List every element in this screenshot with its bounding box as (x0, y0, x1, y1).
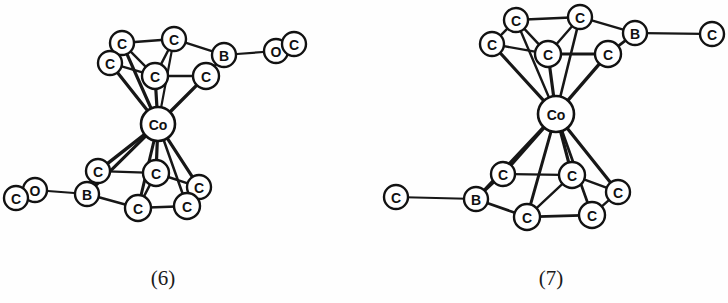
atom-circle-l_c_botright (174, 193, 200, 219)
atom-circle-u_b (212, 43, 236, 67)
atom-carbon-l_c_botright[interactable]: C (174, 193, 200, 219)
atom-circle-co (141, 107, 175, 141)
atom-carbon-u_c_term[interactable]: C (282, 32, 306, 56)
atom-circle-u_c_term (700, 22, 724, 46)
atom-carbon-l_c_term[interactable]: C (4, 186, 28, 210)
atom-boron-l_b[interactable]: B (75, 182, 99, 206)
atom-boron-l_b[interactable]: B (464, 187, 488, 211)
atom-cobalt-co[interactable]: Co (141, 107, 175, 141)
bond-l_c_bot-l_c_botright (538, 215, 582, 216)
bond-l_c_center-l_c_bot (535, 182, 565, 210)
atom-circle-u_c_left (98, 51, 122, 75)
atom-carbon-l_c_bot[interactable]: C (514, 204, 540, 230)
atom-cobalt-co[interactable]: Co (538, 96, 574, 132)
structure-7: CCCCCBCCoCCCBCCC(7) (384, 5, 724, 290)
atom-circle-u_c_center (535, 41, 561, 67)
atom-circle-u_c_term (282, 32, 306, 56)
atom-carbon-u_c_right[interactable]: C (595, 41, 621, 67)
bond-u_c_topleft-u_c_topmid (131, 40, 164, 43)
bond-u_c_right-co (566, 62, 601, 102)
atom-circle-l_c_left (86, 159, 110, 183)
atom-carbon-u_c_topmid[interactable]: C (162, 27, 186, 51)
bond-l_b-l_c_term (406, 197, 467, 199)
bond-l_c_bot-l_c_botright (148, 206, 176, 207)
atom-circle-l_c_term (384, 185, 408, 209)
atom-circle-u_c_left (480, 32, 504, 56)
atom-carbon-u_c_topleft[interactable]: C (504, 8, 528, 32)
bond-u_c_right-co (168, 83, 198, 113)
atom-circle-l_c_center (559, 162, 585, 188)
bond-u_c_center-co (549, 64, 554, 98)
atom-circle-l_c_bot (125, 195, 151, 221)
bond-u_c_left-u_c_center (501, 46, 537, 52)
atom-circle-l_c_bot (514, 204, 540, 230)
atom-circle-u_c_right (193, 63, 219, 89)
bond-u_c_topleft-u_c_topmid (525, 17, 570, 19)
atom-circle-co (538, 96, 574, 132)
atom-circle-u_c_topmid (162, 27, 186, 51)
atom-carbon-l_c_bot[interactable]: C (125, 195, 151, 221)
atom-carbon-l_c_center[interactable]: C (143, 160, 169, 186)
structure-6: CCCCCBOCCoCCCBCCOC(6) (4, 27, 306, 290)
structure-6-caption: (6) (151, 266, 176, 290)
atom-circle-l_c_botright (579, 202, 605, 228)
atom-circle-u_b (623, 21, 647, 45)
atom-circle-u_c_topleft (504, 8, 528, 32)
bond-l_c_left-l_c_center (107, 171, 145, 172)
atom-carbon-u_c_center[interactable]: C (535, 41, 561, 67)
atom-boron-u_b[interactable]: B (212, 43, 236, 67)
atom-carbon-u_c_left[interactable]: C (480, 32, 504, 56)
atom-carbon-u_c_right[interactable]: C (193, 63, 219, 89)
atom-circle-u_c_topmid (568, 5, 592, 29)
atom-circle-l_b (464, 187, 488, 211)
molecular-structure-diagram: CCCCCBOCCoCCCBCCOC(6)CCCCCBCCoCCCBCCC(7) (0, 0, 728, 303)
bond-l_b-l_c_bot (96, 197, 128, 206)
atom-carbon-u_c_center[interactable]: C (142, 63, 168, 89)
atom-carbon-u_c_term[interactable]: C (700, 22, 724, 46)
atom-carbon-l_c_center[interactable]: C (559, 162, 585, 188)
atom-carbon-u_c_left[interactable]: C (98, 51, 122, 75)
bond-u_b-u_c_term (645, 33, 703, 34)
atom-circle-l_c_right (606, 180, 630, 204)
atom-carbon-l_c_left[interactable]: C (491, 162, 515, 186)
atom-carbon-l_c_term[interactable]: C (384, 185, 408, 209)
atom-carbon-l_c_left[interactable]: C (86, 159, 110, 183)
bond-co-l_c_left (105, 133, 146, 165)
atom-carbon-l_c_right[interactable]: C (606, 180, 630, 204)
atom-circle-l_c_left (491, 162, 515, 186)
atom-carbon-u_c_topmid[interactable]: C (568, 5, 592, 29)
bond-l_c_center-l_c_right (582, 179, 609, 189)
atom-circle-l_c_center (143, 160, 169, 186)
figure-root: CCCCCBOCCoCCCBCCOC(6)CCCCCBCCoCCCBCCC(7) (0, 0, 728, 303)
bond-u_c_topmid-u_c_center (555, 24, 574, 46)
atom-circle-u_c_center (142, 63, 168, 89)
bond-u_c_topmid-u_b (589, 20, 626, 31)
atom-circle-l_b (75, 182, 99, 206)
bond-u_c_topmid-u_b (183, 42, 215, 52)
atom-circle-u_c_right (595, 41, 621, 67)
structure-7-caption: (7) (539, 266, 564, 290)
bond-u_b-u_o (233, 52, 266, 55)
atom-circle-l_c_term (4, 186, 28, 210)
structure-7-atoms: CCCCCBCCoCCCBCCC (384, 5, 724, 230)
atom-boron-u_b[interactable]: B (623, 21, 647, 45)
atom-carbon-l_c_botright[interactable]: C (579, 202, 605, 228)
bond-l_b-l_c_bot (485, 202, 517, 213)
bond-l_b-l_o (44, 191, 77, 194)
bond-l_c_left-l_c_center (513, 174, 562, 175)
